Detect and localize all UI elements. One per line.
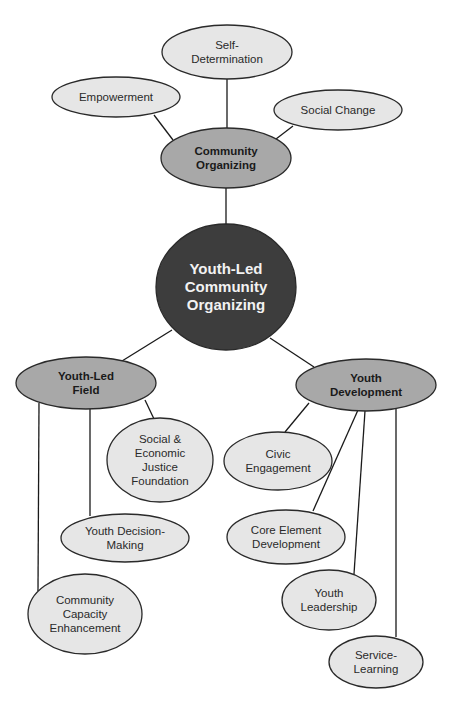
node-youth-decision-making-ellipse [61, 514, 189, 562]
edge-center-to-youth-led-field [122, 330, 172, 361]
node-community-organizing: CommunityOrganizing [161, 128, 291, 188]
node-youth-led-field-label-line: Youth-Led [58, 370, 114, 382]
concept-map: Youth-LedCommunityOrganizingCommunityOrg… [0, 0, 453, 701]
node-youth-decision-making: Youth Decision-Making [61, 514, 189, 562]
node-self-determination-ellipse [162, 25, 292, 79]
node-service-learning-label-line: Service- [355, 649, 397, 661]
node-youth-led-field: Youth-LedField [16, 357, 156, 409]
node-service-learning: Service-Learning [329, 636, 423, 688]
node-empowerment-label-line: Empowerment [79, 91, 154, 103]
node-self-determination-label-line: Self- [215, 39, 239, 51]
edge-youth-led-field-to-community-capacity [38, 403, 39, 591]
node-social-economic-justice-ellipse [107, 418, 213, 502]
node-youth-decision-making-label-line: Making [106, 539, 143, 551]
node-social-economic-justice-label-line: Foundation [131, 475, 189, 487]
node-community-capacity-label-line: Community [56, 594, 114, 606]
node-social-economic-justice-label-line: Social & [139, 433, 182, 445]
edge-center-to-youth-development [270, 338, 314, 367]
node-service-learning-label-line: Learning [354, 663, 399, 675]
node-youth-leadership-label-line: Leadership [301, 601, 358, 613]
node-center: Youth-LedCommunityOrganizing [156, 224, 296, 350]
node-youth-decision-making-label-line: Youth Decision- [85, 525, 165, 537]
node-community-capacity-label-line: Enhancement [50, 622, 122, 634]
node-youth-development-ellipse [296, 359, 436, 411]
node-self-determination: Self-Determination [162, 25, 292, 79]
node-community-capacity: CommunityCapacityEnhancement [28, 574, 142, 654]
node-service-learning-ellipse [329, 636, 423, 688]
node-youth-led-field-label-line: Field [73, 384, 100, 396]
node-civic-engagement-ellipse [224, 432, 332, 490]
node-civic-engagement: CivicEngagement [224, 432, 332, 490]
node-youth-leadership-label-line: Youth [315, 587, 344, 599]
node-community-organizing-label-line: Community [194, 145, 258, 157]
node-social-change: Social Change [274, 90, 402, 130]
node-civic-engagement-label-line: Engagement [245, 462, 311, 474]
node-community-capacity-label-line: Capacity [63, 608, 108, 620]
node-center-label-line: Organizing [187, 296, 265, 313]
node-core-element-ellipse [227, 510, 345, 564]
concept-nodes: Youth-LedCommunityOrganizingCommunityOrg… [16, 25, 436, 688]
node-core-element: Core ElementDevelopment [227, 510, 345, 564]
node-center-label-line: Community [185, 278, 268, 295]
node-empowerment: Empowerment [52, 77, 180, 117]
node-social-change-label-line: Social Change [301, 104, 376, 116]
node-self-determination-label-line: Determination [191, 53, 263, 65]
node-social-economic-justice-label-line: Justice [142, 461, 178, 473]
node-community-organizing-ellipse [161, 128, 291, 188]
node-youth-led-field-ellipse [16, 357, 156, 409]
node-civic-engagement-label-line: Civic [266, 448, 291, 460]
node-youth-development-label-line: Youth [350, 372, 382, 384]
node-youth-development: YouthDevelopment [296, 359, 436, 411]
edge-youth-development-to-civic-engagement [285, 403, 309, 432]
edge-community-organizing-to-social-change [276, 126, 293, 139]
node-youth-development-label-line: Development [330, 386, 402, 398]
node-center-label-line: Youth-Led [189, 260, 262, 277]
node-community-organizing-label-line: Organizing [196, 159, 256, 171]
edge-youth-development-to-youth-leadership [354, 411, 365, 574]
edge-community-organizing-to-empowerment [154, 115, 173, 140]
node-youth-leadership: YouthLeadership [282, 570, 376, 630]
node-social-economic-justice: Social &EconomicJusticeFoundation [107, 418, 213, 502]
node-social-economic-justice-label-line: Economic [135, 447, 186, 459]
node-core-element-label-line: Development [252, 538, 321, 550]
edge-youth-led-field-to-social-economic-justice [145, 400, 154, 419]
node-youth-leadership-ellipse [282, 570, 376, 630]
node-core-element-label-line: Core Element [251, 524, 322, 536]
